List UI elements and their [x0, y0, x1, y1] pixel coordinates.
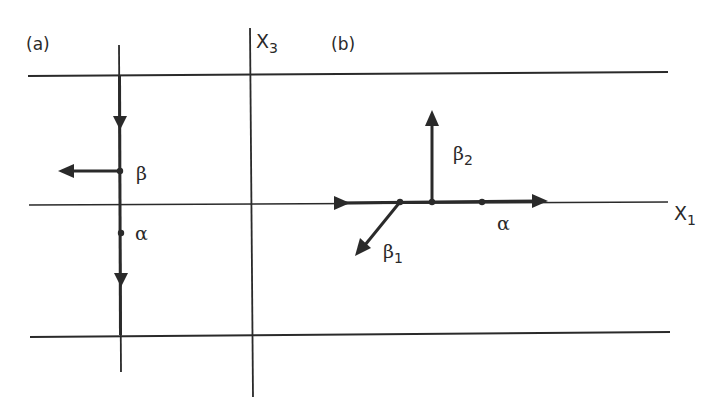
panel-a-alpha-label: α	[135, 222, 148, 244]
panel-a-beta-arrow-left-icon	[58, 164, 74, 178]
panel-a-label: (a)	[26, 34, 50, 54]
top-boundary-line	[28, 72, 668, 76]
panel-a-ray-thick-segment	[120, 76, 121, 335]
x3-axis-label: X3	[256, 30, 278, 56]
panel-a-arrow-down-icon	[114, 273, 128, 287]
panel-b-beta2-arrow-up-icon	[425, 110, 439, 126]
bottom-boundary-line	[30, 332, 670, 337]
panel-a-alpha-point	[118, 230, 124, 236]
panel-a-arrow-down-icon	[113, 116, 127, 130]
panel-b-beta1-point	[397, 199, 403, 205]
panel-b-beta2-point	[429, 199, 435, 205]
x1-axis-label-sub: 1	[687, 212, 696, 228]
panel-b-beta1-label: β1	[383, 240, 403, 266]
x1-axis-label: X1	[674, 202, 696, 228]
panel-b-beta2-label-sub: 2	[464, 152, 473, 168]
panel-b-arrow-right-icon	[532, 194, 548, 208]
panel-a-beta-point	[117, 168, 123, 174]
panel-b-alpha-label: α	[497, 212, 510, 234]
panel-b-beta1-label-sub: 1	[394, 250, 403, 266]
panel-b-alpha-point	[479, 199, 485, 205]
x1-axis-label-main: X	[674, 202, 687, 224]
panel-b-arrow-right-icon	[334, 196, 350, 210]
panel-a-beta-label: β	[136, 162, 147, 184]
x3-axis-label-sub: 3	[269, 40, 278, 56]
panel-b-label: (b)	[331, 34, 355, 54]
panel-b-beta2-label: β2	[453, 142, 473, 168]
panel-b-beta1-label-main: β	[383, 240, 394, 262]
panel-b-beta1-ray	[365, 202, 400, 245]
panel-b-beta2-label-main: β	[453, 142, 464, 164]
x3-axis-label-main: X	[256, 30, 269, 52]
panel-b-horizontal-ray	[335, 201, 540, 203]
x3-axis-line	[250, 28, 253, 397]
diagram-canvas: (a) (b) X3 X1 β α β2 β1 α	[0, 0, 727, 414]
